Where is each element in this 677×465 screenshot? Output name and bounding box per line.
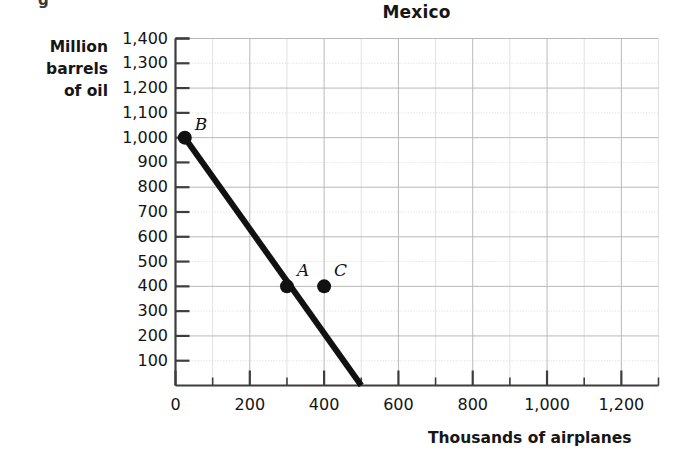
chart-canvas: g Mexico Million barrels of oil 10020030… — [0, 0, 677, 465]
data-point-label-c: C — [334, 260, 347, 280]
data-point-b — [178, 131, 192, 145]
data-point-c — [317, 279, 331, 293]
data-point-a — [280, 279, 294, 293]
data-point-label-b: B — [194, 114, 208, 134]
grid-minor — [176, 39, 659, 386]
plot-area: BAC — [0, 0, 677, 465]
data-point-label-a: A — [295, 260, 309, 280]
data-points: BAC — [178, 114, 347, 294]
